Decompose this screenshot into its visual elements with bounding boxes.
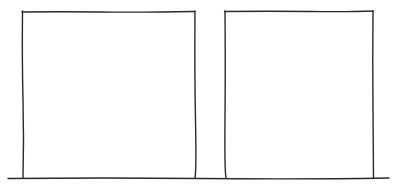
left-rectangle-top-edge <box>22 12 195 13</box>
left-rectangle-right-edge <box>195 11 196 178</box>
ground-baseline <box>8 178 389 179</box>
right-rectangle-top-edge <box>225 11 374 12</box>
sketch-canvas <box>0 0 394 188</box>
left-rectangle-left-edge <box>22 11 23 178</box>
right-rectangle-left-edge <box>225 11 226 178</box>
right-rectangle-right-edge <box>373 11 374 178</box>
right-rectangle <box>225 11 374 178</box>
left-rectangle <box>22 11 196 178</box>
